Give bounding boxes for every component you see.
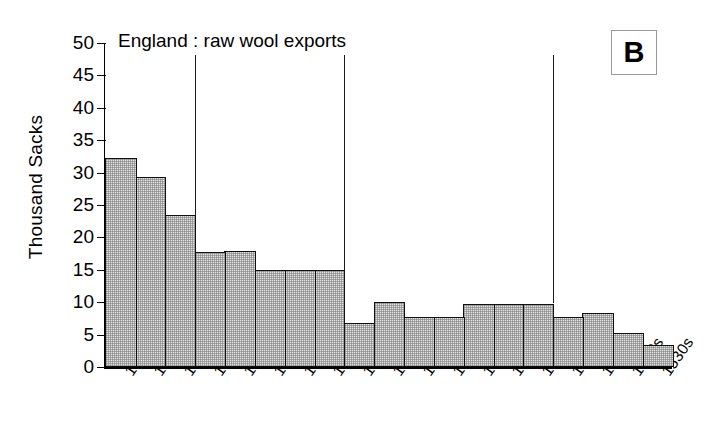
y-tick-label-35: 35 (52, 130, 94, 150)
bar-1350s (105, 158, 137, 367)
chart-figure: Thousand Sacks 05101520253035404550 Engl… (0, 0, 709, 438)
y-tick-label-45: 45 (52, 65, 94, 85)
bar-series (105, 43, 672, 367)
y-tick-label-25: 25 (52, 195, 94, 215)
bar-1520s (612, 333, 644, 367)
bar-1380s (195, 252, 227, 367)
bar-1450s (403, 317, 435, 367)
bar-1390s (224, 251, 256, 367)
bar-1510s (582, 313, 614, 367)
y-tick-label-10: 10 (52, 292, 94, 312)
bar-1440s (374, 302, 406, 367)
bar-1460s (433, 317, 465, 367)
bar-1370s (165, 215, 197, 367)
period-divider-after-1490s (553, 55, 554, 303)
y-axis-ticks: 05101520253035404550 (58, 33, 106, 377)
period-divider-after-1420s (344, 55, 345, 270)
y-tick-label-15: 15 (52, 260, 94, 280)
y-tick-label-0: 0 (52, 357, 94, 377)
bar-1360s (135, 177, 167, 367)
bar-1500s (553, 317, 585, 367)
bar-1470s (463, 304, 495, 368)
bar-1410s (284, 270, 316, 367)
y-tick-label-5: 5 (52, 325, 94, 345)
bar-1430s (344, 323, 376, 367)
y-tick-label-20: 20 (52, 227, 94, 247)
bar-1530s (642, 345, 674, 367)
x-axis-labels: 1350s1360s1370s1380s1390s1400s1410s1420s… (105, 369, 672, 438)
y-axis-title: Thousand Sacks (25, 47, 47, 327)
y-tick-label-50: 50 (52, 33, 94, 53)
y-tick-label-40: 40 (52, 98, 94, 118)
bar-1490s (523, 304, 555, 368)
period-divider-after-1370s (195, 55, 196, 215)
plot-area (105, 43, 672, 367)
bar-1400s (254, 270, 286, 367)
bar-1420s (314, 270, 346, 367)
bar-1480s (493, 304, 525, 368)
y-tick-label-30: 30 (52, 163, 94, 183)
